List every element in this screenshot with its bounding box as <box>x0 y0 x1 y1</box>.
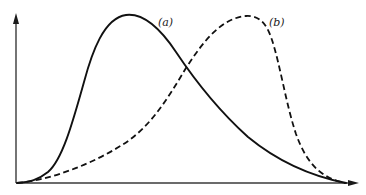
curve-b <box>17 16 345 183</box>
curve-a <box>17 15 346 183</box>
curve-b-label: (b) <box>269 16 285 29</box>
distribution-chart: (a) (b) <box>0 0 366 195</box>
curve-a-label: (a) <box>158 16 173 29</box>
y-axis-arrow-icon <box>13 13 19 24</box>
x-axis-arrow-icon <box>348 180 359 186</box>
